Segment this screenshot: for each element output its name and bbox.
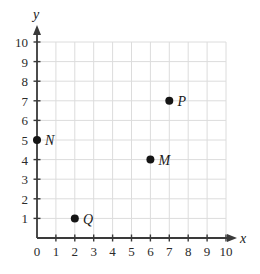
point-label-q: Q: [83, 212, 93, 227]
x-tick-label-4: 4: [109, 244, 116, 259]
point-marker-m[interactable]: [146, 156, 154, 164]
point-label-m: M: [158, 153, 172, 168]
y-tick-label-2: 2: [22, 192, 29, 207]
x-tick-label-9: 9: [204, 244, 211, 259]
y-tick-label-1: 1: [22, 211, 29, 226]
x-tick-label-2: 2: [72, 244, 79, 259]
x-tick-label-6: 6: [147, 244, 154, 259]
x-tick-label-1: 1: [53, 244, 60, 259]
y-tick-label-9: 9: [22, 55, 29, 70]
x-tick-label-10: 10: [220, 244, 233, 259]
x-tick-label-3: 3: [90, 244, 97, 259]
x-tick-label-0: 0: [34, 244, 41, 259]
y-tick-label-4: 4: [22, 153, 29, 168]
point-label-p: P: [177, 94, 187, 109]
x-axis-name: x: [239, 231, 247, 246]
y-tick-label-10: 10: [15, 35, 28, 50]
y-axis: [33, 25, 41, 238]
x-tick-label-8: 8: [185, 244, 192, 259]
x-tick-label-5: 5: [128, 244, 135, 259]
y-tick-label-3: 3: [22, 172, 29, 187]
x-axis-arrowhead: [227, 234, 237, 242]
y-axis-arrowhead: [33, 25, 41, 35]
point-marker-n[interactable]: [33, 136, 41, 144]
point-marker-p[interactable]: [165, 97, 173, 105]
x-tick-label-7: 7: [166, 244, 173, 259]
point-marker-q[interactable]: [71, 214, 79, 222]
y-axis-name: y: [31, 7, 40, 22]
plot-area: 0 1 2 3 4 5 6 7 8 9 10 10 9 8 7 6 5 4 3 …: [0, 0, 260, 274]
x-axis-tick-labels: 0 1 2 3 4 5 6 7 8 9 10: [34, 244, 233, 259]
y-tick-label-6: 6: [22, 113, 29, 128]
point-label-n: N: [44, 133, 55, 148]
y-tick-label-8: 8: [22, 74, 29, 89]
coordinate-plane-figure: 0 1 2 3 4 5 6 7 8 9 10 10 9 8 7 6 5 4 3 …: [0, 0, 260, 274]
y-tick-label-7: 7: [22, 94, 29, 109]
y-axis-tick-labels: 10 9 8 7 6 5 4 3 2 1: [15, 35, 29, 226]
y-tick-label-5: 5: [22, 133, 29, 148]
